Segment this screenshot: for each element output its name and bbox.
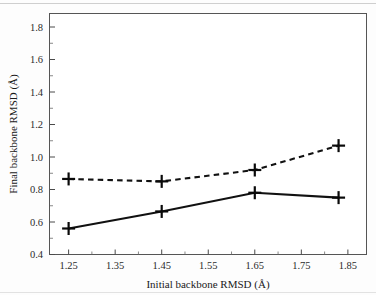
x-tick-label: 1.85 [339, 260, 357, 271]
y-axis-tick-labels: 0.40.60.81.01.21.41.61.8 [30, 22, 44, 261]
x-tick-label: 1.65 [246, 260, 264, 271]
y-axis-title: Final backbone RMSD (Å) [7, 74, 20, 194]
y-tick-label: 1.8 [30, 22, 43, 33]
y-tick-label: 0.4 [30, 249, 44, 260]
x-tick-label: 1.25 [59, 260, 77, 271]
y-tick-label: 0.6 [30, 217, 43, 228]
y-tick-label: 0.8 [30, 184, 43, 195]
x-tick-label: 1.55 [199, 260, 217, 271]
x-tick-label: 1.35 [106, 260, 124, 271]
rmsd-scatter-line-chart: 0.40.60.81.01.21.41.61.8 1.251.351.451.5… [0, 0, 376, 295]
x-tick-label: 1.75 [292, 260, 310, 271]
y-tick-label: 1.4 [30, 87, 44, 98]
x-axis-tick-labels: 1.251.351.451.551.651.751.85 [59, 260, 357, 271]
y-tick-label: 1.6 [30, 54, 43, 65]
y-tick-label: 1.2 [30, 119, 43, 130]
x-axis-title: Initial backbone RMSD (Å) [146, 278, 269, 291]
y-tick-label: 1.0 [30, 152, 43, 163]
plot-frame [50, 14, 367, 255]
scan-artifact-top [0, 3, 376, 4]
figure-canvas: 0.40.60.81.01.21.41.61.8 1.251.351.451.5… [0, 0, 376, 295]
x-tick-label: 1.45 [153, 260, 171, 271]
scan-artifact-bottom [0, 292, 376, 293]
